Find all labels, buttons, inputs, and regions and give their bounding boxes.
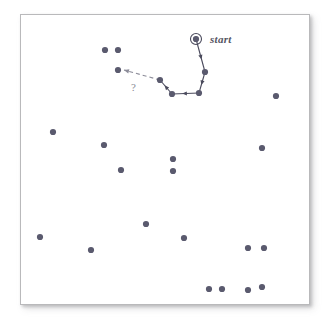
start-marker	[191, 34, 202, 45]
data-point[interactable]	[196, 90, 202, 96]
scatter-plot-scene: start ?	[0, 0, 334, 324]
question-mark-label: ?	[131, 81, 136, 93]
dashed-path-segment	[124, 70, 160, 80]
data-point[interactable]	[245, 287, 251, 293]
traversal-path-layer	[160, 39, 205, 96]
dashed-path-layer	[123, 68, 160, 80]
data-points-layer	[37, 36, 279, 293]
start-label: start	[210, 33, 232, 45]
plot-canvas	[0, 0, 334, 324]
data-point[interactable]	[157, 77, 163, 83]
data-point[interactable]	[202, 69, 208, 75]
data-point[interactable]	[115, 67, 121, 73]
data-point[interactable]	[88, 247, 94, 253]
data-point[interactable]	[245, 245, 251, 251]
data-point[interactable]	[170, 156, 176, 162]
start-marker-dot-icon	[193, 36, 198, 41]
data-point[interactable]	[118, 167, 124, 173]
data-point[interactable]	[259, 284, 265, 290]
data-point[interactable]	[206, 286, 212, 292]
data-point[interactable]	[101, 142, 107, 148]
data-point[interactable]	[37, 234, 43, 240]
data-point[interactable]	[143, 221, 149, 227]
path-arrow-icon	[182, 91, 187, 95]
data-point[interactable]	[181, 235, 187, 241]
data-point[interactable]	[259, 145, 265, 151]
data-point[interactable]	[115, 47, 121, 53]
data-point[interactable]	[169, 91, 175, 97]
data-point[interactable]	[219, 286, 225, 292]
dashed-path-arrow-icon	[123, 68, 129, 74]
data-point[interactable]	[50, 129, 56, 135]
data-point[interactable]	[261, 245, 267, 251]
data-point[interactable]	[102, 47, 108, 53]
data-point[interactable]	[170, 168, 176, 174]
data-point[interactable]	[273, 93, 279, 99]
